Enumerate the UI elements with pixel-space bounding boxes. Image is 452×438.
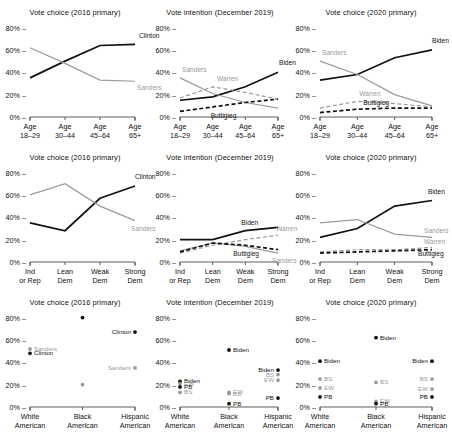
y-tick-label: 80% – <box>150 24 176 33</box>
point-label-pb: PB <box>233 400 241 407</box>
data-point <box>374 402 378 406</box>
point-label-pb: PB <box>380 400 388 407</box>
y-tick-label: 40% – <box>290 358 316 367</box>
x-category-label: Strong Dem <box>407 268 452 285</box>
series-label-buttigieg: Buttigieg <box>211 112 237 119</box>
series-label-warren: Warren <box>217 75 238 82</box>
y-tick-label: 60% – <box>0 336 26 345</box>
chart-panel-2: Vote intention (December 2019)0% –20% –4… <box>150 0 290 145</box>
x-axis <box>30 117 135 121</box>
y-tick-label: 40% – <box>0 213 26 222</box>
x-axis <box>320 117 432 121</box>
y-tick-label: 40% – <box>150 68 176 77</box>
point-label-sanders: Sanders <box>34 345 57 352</box>
x-category-label: White American <box>155 413 205 430</box>
plot-svg <box>30 22 135 119</box>
data-point <box>227 402 231 406</box>
series-label-warren: Warren <box>359 90 380 97</box>
data-point <box>374 336 378 340</box>
y-tick-label: 80% – <box>150 169 176 178</box>
plot-area: 0% –20% –40% –60% –80% –BidenSandersWarr… <box>320 167 432 262</box>
figure-grid: Vote choice (2016 primary)0% –20% –40% –… <box>0 0 452 438</box>
plot-svg <box>320 167 432 264</box>
data-point <box>227 348 231 352</box>
y-tick-label: 80% – <box>290 314 316 323</box>
x-category-label: White American <box>295 413 345 430</box>
panel-title: Vote choice (2020 primary) <box>290 298 452 307</box>
y-tick-label: 20% – <box>0 91 26 100</box>
point-label-pb: PB <box>266 394 274 401</box>
x-category-label: Black American <box>204 413 254 430</box>
data-point <box>276 378 280 382</box>
chart-panel-7: Vote choice (2016 primary)0% –20% –40% –… <box>0 290 150 438</box>
plot-svg <box>180 167 278 264</box>
panel-title: Vote intention (December 2019) <box>150 153 290 162</box>
y-tick-label: 40% – <box>150 213 176 222</box>
chart-panel-8: Vote intention (December 2019)0% –20% –4… <box>150 290 290 438</box>
point-label-pb: PB <box>184 383 192 390</box>
point-label-pb: PB <box>420 393 428 400</box>
data-point <box>430 377 434 381</box>
y-tick-label: 60% – <box>150 191 176 200</box>
point-label-sanders: Sanders <box>108 364 131 371</box>
y-tick-label: 40% – <box>290 213 316 222</box>
line-series-biden <box>180 227 278 239</box>
data-point <box>318 377 322 381</box>
data-point <box>81 383 85 387</box>
plot-svg <box>30 312 135 409</box>
y-tick-label: 80% – <box>290 24 316 33</box>
line-series-clinton <box>30 186 135 231</box>
panel-title: Vote choice (2020 primary) <box>290 8 452 17</box>
y-tick-label: 40% – <box>0 68 26 77</box>
series-label-warren: Warren <box>424 238 445 245</box>
y-tick-label: 20% – <box>150 236 176 245</box>
point-label-biden: Biden <box>412 357 428 364</box>
point-label-biden: Biden <box>380 334 396 341</box>
chart-panel-6: Vote choice (2020 primary)0% –20% –40% –… <box>290 145 452 290</box>
y-tick-label: 80% – <box>0 169 26 178</box>
data-point <box>318 386 322 390</box>
line-series-warren <box>320 247 432 251</box>
y-tick-label: 80% – <box>150 314 176 323</box>
y-tick-label: 0% – <box>290 258 316 267</box>
plot-area: 0% –20% –40% –60% –80% –BidenSandersWarr… <box>320 22 432 117</box>
series-label-sanders: Sanders <box>322 49 347 56</box>
series-label-biden: Biden <box>432 37 449 44</box>
data-point <box>318 395 322 399</box>
data-point <box>28 351 32 355</box>
x-category-label: Black American <box>351 413 401 430</box>
x-axis <box>30 262 135 266</box>
data-point <box>430 395 434 399</box>
x-axis <box>320 407 432 411</box>
plot-area: 0% –20% –40% –60% –80% –ClintonSandersIn… <box>30 167 135 262</box>
data-point <box>430 359 434 363</box>
y-tick-label: 40% – <box>0 358 26 367</box>
y-tick-label: 0% – <box>150 403 176 412</box>
data-point <box>318 359 322 363</box>
panel-title: Vote choice (2016 primary) <box>0 298 150 307</box>
chart-panel-4: Vote choice (2016 primary)0% –20% –40% –… <box>0 145 150 290</box>
line-series-biden <box>320 201 432 238</box>
plot-area: 0% –20% –40% –60% –80% –BidenSandersWarr… <box>180 167 278 262</box>
point-label-bs: BS <box>233 390 241 397</box>
y-tick-label: 60% – <box>290 191 316 200</box>
plot-area: 0% –20% –40% –60% –80% –BidenSandersWarr… <box>180 22 278 117</box>
data-point <box>374 381 378 385</box>
x-axis <box>320 262 432 266</box>
point-label-clinton: Clinton <box>112 328 131 335</box>
series-label-biden: Biden <box>241 219 258 226</box>
point-label-ew: EW <box>418 385 428 392</box>
y-tick-label: 20% – <box>0 381 26 390</box>
x-axis <box>180 407 278 411</box>
series-label-sanders: Sanders <box>182 66 207 73</box>
x-category-label: White American <box>5 413 55 430</box>
plot-area: 0% –20% –40% –60% –80% –ClintonSandersAg… <box>30 22 135 117</box>
line-series-buttigieg <box>320 108 432 112</box>
y-tick-label: 60% – <box>0 46 26 55</box>
panel-title: Vote choice (2016 primary) <box>0 8 150 17</box>
data-point <box>133 366 137 370</box>
y-tick-label: 0% – <box>0 258 26 267</box>
panel-title: Vote choice (2020 primary) <box>290 153 452 162</box>
data-point <box>227 392 231 396</box>
y-tick-label: 20% – <box>150 381 176 390</box>
